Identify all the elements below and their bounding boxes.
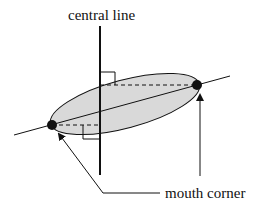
left-mouth-corner-dot (47, 120, 57, 130)
arrow-to-left-corner (59, 134, 160, 193)
mouth-corner-diagram: central line mouth corner (0, 0, 265, 210)
right-mouth-corner-dot (192, 80, 202, 90)
mouth-ellipse (44, 61, 205, 147)
mouth-corner-label: mouth corner (165, 185, 245, 201)
central-line-label: central line (68, 7, 135, 23)
